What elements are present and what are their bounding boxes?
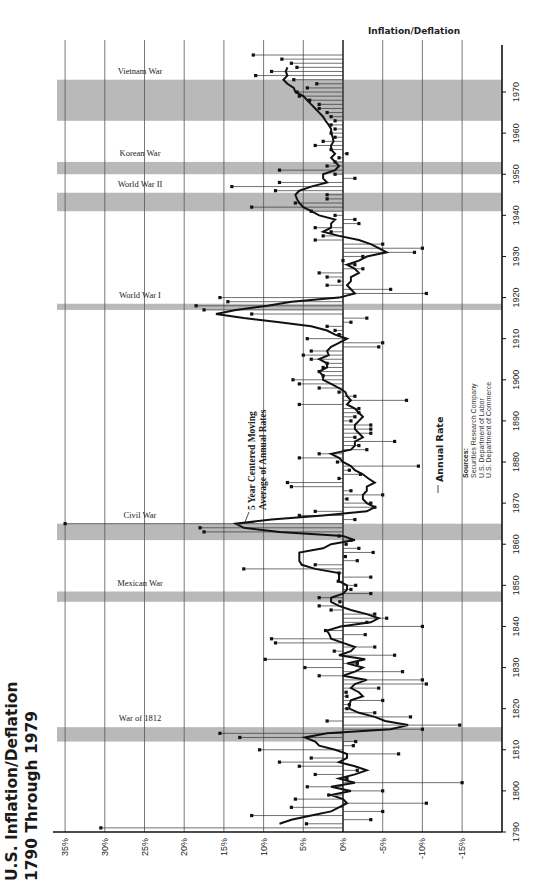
annual-point — [198, 526, 201, 529]
annual-point — [413, 251, 416, 254]
annual-point — [333, 127, 336, 130]
annual-point — [354, 584, 357, 587]
annual-point — [385, 617, 388, 620]
annual-point — [338, 600, 341, 603]
annual-point — [318, 103, 321, 106]
year-tick-label: 1850 — [511, 575, 521, 595]
annual-point — [218, 296, 221, 299]
annual-point — [373, 613, 376, 616]
annual-point — [326, 193, 329, 196]
annual-point — [369, 428, 372, 431]
annual-point — [264, 658, 267, 661]
annual-point — [397, 752, 400, 755]
value-tick-label: -5% — [378, 838, 388, 854]
annual-point — [318, 452, 321, 455]
annual-point — [357, 444, 360, 447]
annual-point — [314, 238, 317, 241]
annual-point — [202, 308, 205, 311]
value-tick-label: -10% — [417, 838, 427, 859]
year-tick-label: 1890 — [511, 411, 521, 431]
annual-point — [353, 415, 356, 418]
year-tick-label: 1940 — [511, 205, 521, 225]
axis-header: Inflation/Deflation — [368, 26, 460, 36]
annual-point — [337, 391, 340, 394]
annual-point — [369, 576, 372, 579]
annual-point — [353, 218, 356, 221]
annual-point — [425, 802, 428, 805]
annual-point — [393, 440, 396, 443]
annual-point — [333, 650, 336, 653]
annual-point — [389, 288, 392, 291]
annotations: 5 Year Centered MovingAverage of Annual … — [245, 382, 493, 522]
annual-point — [310, 756, 313, 759]
annual-point — [302, 354, 305, 357]
annual-point — [314, 144, 317, 147]
annual-point — [341, 259, 344, 262]
annual-point — [356, 769, 359, 772]
annual-point — [278, 169, 281, 172]
annual-point — [238, 736, 241, 739]
war-band — [57, 193, 502, 211]
annual-point — [353, 395, 356, 398]
value-tick-label: 15% — [219, 838, 229, 856]
year-tick-label: 1810 — [511, 740, 521, 760]
annual-point — [345, 152, 348, 155]
annual-point — [270, 637, 273, 640]
annual-point — [292, 78, 295, 81]
annual-point — [318, 604, 321, 607]
annual-point — [326, 719, 329, 722]
annual-point — [318, 107, 321, 110]
annual-point — [344, 555, 347, 558]
annual-point — [352, 744, 355, 747]
war-band — [57, 162, 502, 174]
annual-point — [369, 818, 372, 821]
value-tick-label: 5% — [298, 838, 308, 851]
moving-average-line — [216, 67, 408, 823]
annual-point — [314, 226, 317, 229]
value-tick-label: 30% — [100, 838, 110, 856]
annual-point — [369, 592, 372, 595]
annual-point — [377, 687, 380, 690]
annual-point — [369, 423, 372, 426]
annual-point — [336, 460, 339, 463]
annual-point — [349, 489, 352, 492]
annual-point — [361, 267, 364, 270]
chart-title: U.S. Inflation/Deflation 1790 Through 19… — [2, 581, 42, 881]
annual-point — [294, 798, 297, 801]
annual-point — [202, 530, 205, 533]
moving-average-label: 5 Year Centered Moving — [247, 411, 257, 510]
year-tick-label: 1820 — [511, 699, 521, 719]
annual-point — [381, 243, 384, 246]
year-tick-label: 1880 — [511, 452, 521, 472]
annual-point — [365, 448, 368, 451]
annual-rate-label: Annual Rate — [434, 417, 445, 482]
annual-point — [326, 275, 329, 278]
annual-point — [314, 773, 317, 776]
annual-point — [357, 407, 360, 410]
annual-point — [274, 641, 277, 644]
annual-point — [322, 234, 325, 237]
annual-point — [310, 349, 313, 352]
annual-point — [326, 325, 329, 328]
annual-point — [195, 304, 198, 307]
annual-point — [345, 707, 348, 710]
annual-point — [258, 748, 261, 751]
annual-point — [64, 522, 67, 525]
value-tick-label: 35% — [60, 838, 70, 856]
year-tick-label: 1830 — [511, 658, 521, 678]
inflation-chart: 35%30%25%20%15%10%5%0%-5%-10%-15%1790180… — [0, 0, 545, 881]
annual-point — [461, 781, 464, 784]
year-tick-label: 1910 — [511, 329, 521, 349]
annual-point — [315, 82, 318, 85]
war-label: Korean War — [120, 148, 161, 158]
annual-point — [349, 588, 352, 591]
annual-point — [357, 547, 360, 550]
annual-point — [349, 321, 352, 324]
annual-point — [318, 386, 321, 389]
annual-point — [381, 810, 384, 813]
annual-point — [305, 822, 308, 825]
annual-point — [353, 518, 356, 521]
annual-point — [421, 625, 424, 628]
year-tick-label: 1950 — [511, 164, 521, 184]
annual-point — [345, 497, 348, 500]
